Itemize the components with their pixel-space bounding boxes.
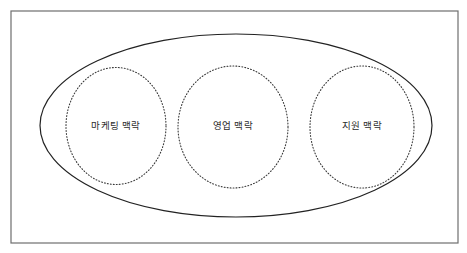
context-label-marketing: 마케팅 맥락 [91, 120, 140, 131]
context-diagram: 마케팅 맥락영업 맥락지원 맥락 [0, 0, 467, 253]
context-ellipse-sales: 영업 맥락 [178, 66, 288, 188]
context-label-support: 지원 맥락 [342, 120, 382, 131]
context-ellipse-support: 지원 맥락 [310, 66, 414, 188]
inner-context-group: 마케팅 맥락영업 맥락지원 맥락 [66, 66, 414, 188]
diagram-canvas: 마케팅 맥락영업 맥락지원 맥락 [0, 0, 467, 253]
context-ellipse-marketing: 마케팅 맥락 [66, 68, 166, 185]
context-label-sales: 영업 맥락 [213, 120, 253, 131]
